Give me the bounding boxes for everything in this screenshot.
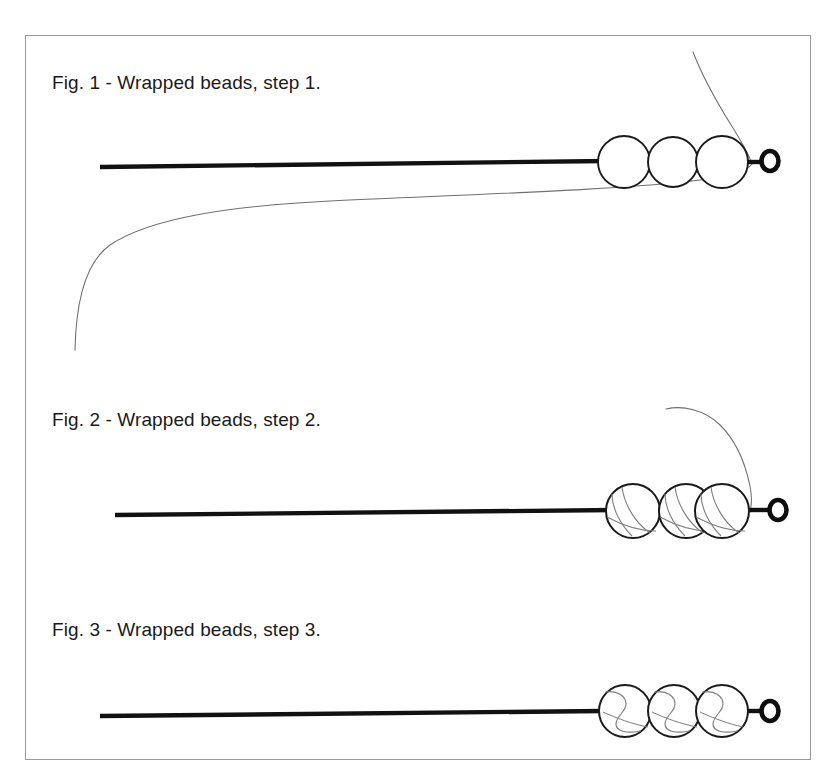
- figure-3-caption: Fig. 3 - Wrapped beads, step 3.: [52, 619, 321, 641]
- diagram-page: Fig. 1 - Wrapped beads, step 1. Fig. 2 -…: [0, 0, 824, 783]
- page-border-frame: [25, 35, 811, 760]
- figure-1-caption: Fig. 1 - Wrapped beads, step 1.: [52, 72, 321, 94]
- figure-2-caption: Fig. 2 - Wrapped beads, step 2.: [52, 409, 321, 431]
